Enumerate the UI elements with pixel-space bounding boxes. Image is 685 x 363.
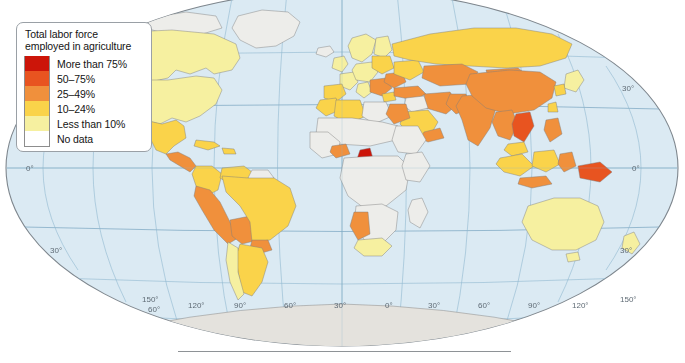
lat-label-left-0: 0° (26, 164, 34, 173)
lat-label-bottom-60: 60° (148, 305, 160, 314)
svg-text:30°: 30° (334, 301, 346, 310)
svg-text:90°: 90° (234, 301, 246, 310)
region-korea (554, 84, 566, 96)
region-tasmania (566, 252, 580, 262)
legend-swatch-gt75 (24, 56, 50, 71)
svg-text:120°: 120° (188, 301, 205, 310)
legend-item-nodata: No data (24, 131, 145, 146)
legend-item-lt10: Less than 10% (24, 116, 145, 131)
lat-label-left-30: 30° (50, 246, 62, 255)
legend-item-10-24: 10–24% (24, 101, 145, 116)
lat-label-right-0: 0° (632, 164, 640, 173)
svg-text:90°: 90° (528, 301, 540, 310)
svg-text:150°: 150° (142, 295, 159, 304)
legend-label-gt75: More than 75% (57, 58, 127, 70)
lat-label-right-30s: 30° (620, 246, 632, 255)
region-taiwan (548, 102, 558, 112)
svg-text:60°: 60° (478, 301, 490, 310)
legend-item-25-49: 25–49% (24, 86, 145, 101)
svg-text:120°: 120° (572, 301, 589, 310)
legend-item-gt75: More than 75% (24, 56, 145, 71)
map-legend: Total labor force employed in agricultur… (16, 22, 152, 152)
lat-label-right-30n: 30° (622, 84, 634, 93)
svg-text:150°: 150° (620, 295, 637, 304)
svg-text:30°: 30° (428, 301, 440, 310)
svg-text:0°: 0° (385, 301, 393, 310)
legend-title: Total labor force employed in agricultur… (25, 29, 145, 52)
legend-swatch-25-49 (24, 86, 50, 101)
legend-swatch-lt10 (24, 116, 50, 131)
legend-label-nodata: No data (57, 133, 93, 145)
legend-label-lt10: Less than 10% (57, 118, 125, 130)
legend-label-25-49: 25–49% (57, 88, 95, 100)
legend-swatch-10-24 (24, 101, 50, 116)
footer-rule (178, 351, 511, 352)
svg-text:60°: 60° (284, 301, 296, 310)
legend-title-line2: employed in agriculture (25, 41, 145, 53)
legend-item-50-75: 50–75% (24, 71, 145, 86)
region-hispaniola (222, 148, 236, 154)
legend-swatch-nodata (24, 131, 50, 147)
world-map-figure: 0° 30° 30° 0° 30° 150° 120° 90° 60° 30° … (0, 0, 685, 363)
legend-swatch-50-75 (24, 71, 50, 86)
legend-label-50-75: 50–75% (57, 73, 95, 85)
legend-title-line1: Total labor force (25, 29, 145, 41)
legend-label-10-24: 10–24% (57, 103, 95, 115)
